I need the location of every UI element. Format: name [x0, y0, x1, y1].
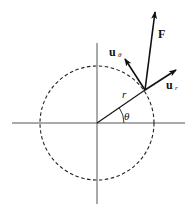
force-label: F [158, 27, 165, 41]
u-theta-subscript: θ [118, 51, 122, 59]
u-r-label: u [166, 78, 173, 92]
u-r-subscript: r [175, 84, 178, 92]
force-vector [145, 12, 155, 90]
angle-label: θ [124, 110, 130, 122]
polar-vector-diagram: F u θ u r r θ [0, 0, 193, 217]
transverse-unit-vector [125, 59, 145, 90]
radius-label: r [122, 88, 127, 100]
u-theta-label: u [109, 45, 116, 59]
radius-line [97, 90, 145, 123]
